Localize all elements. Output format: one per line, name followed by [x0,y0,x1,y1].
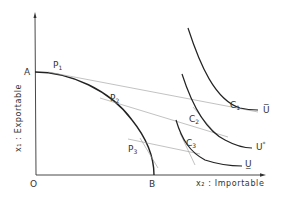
label-u-under: U̲ [245,159,252,169]
ppf-curve [35,72,154,175]
label-p2: P2 [110,93,119,104]
price-lines [48,72,258,168]
label-u-bar: U̅ [263,104,270,115]
y-axis [35,16,36,175]
y-axis-label: x₁ : Exportable [14,84,23,152]
label-b: B [149,179,155,189]
trade-diagram: A B O P1 P2 P3 C1 C2 C3 U̅ U* U̲ x₁ : Ex… [0,0,283,201]
y-axis-arrow-icon [34,12,37,18]
label-u-star: U* [256,140,266,152]
label-p3: P3 [128,144,137,155]
x-axis-label: x₂ : Importable [196,179,264,188]
label-c2: C2 [189,114,199,125]
label-c1: C1 [230,100,240,111]
label-origin: O [30,179,37,189]
x-axis-arrow-icon [260,173,266,176]
indifference-curve-u-star [182,74,252,148]
label-a: A [24,67,31,77]
price-line-1 [48,72,258,112]
label-c3: C3 [186,138,196,149]
tangent-p3 [140,138,158,168]
label-p1: P1 [53,60,62,71]
indifference-curve-u-bar [188,28,258,110]
